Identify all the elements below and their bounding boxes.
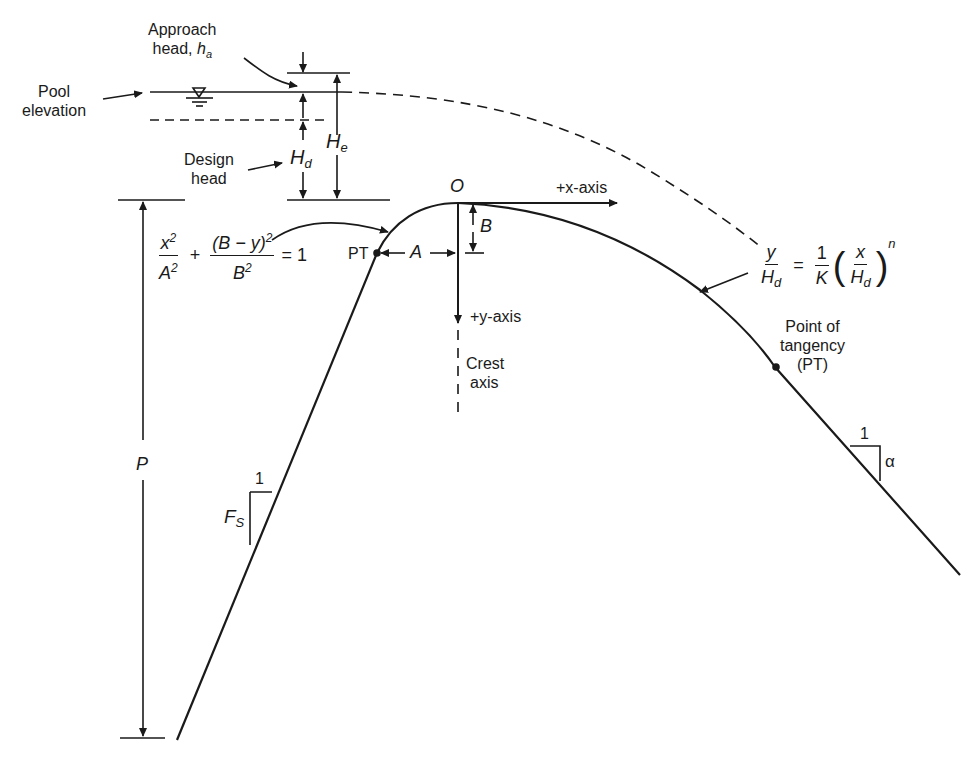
approach-head-line2: head, ha xyxy=(148,39,217,60)
nappe-dashed-curve xyxy=(342,92,762,248)
crest-axis-label: Crest axis xyxy=(466,354,504,392)
pt-downstream-dot xyxy=(773,364,779,370)
ellipse-equation: x2 A2 + (B − y)2 B2 = 1 xyxy=(154,228,314,283)
pt-downstream-label: Point of tangency (PT) xyxy=(780,317,845,374)
power-law-equation: y Hd = 1 K ( x Hd ) n xyxy=(756,242,896,289)
x-axis-label: +x-axis xyxy=(556,178,607,197)
pt-upstream-dot xyxy=(374,250,380,256)
fs-one-label: 1 xyxy=(255,469,264,488)
p-label: P xyxy=(136,454,148,475)
hd-label: Hd xyxy=(290,146,312,169)
he-label: He xyxy=(326,130,348,153)
alpha-slope-triangle xyxy=(850,446,880,481)
upstream-face xyxy=(177,253,377,740)
alpha-label: α xyxy=(885,452,895,472)
design-head-label: Design head xyxy=(184,150,234,188)
approach-head-line1: Approach xyxy=(148,20,217,39)
pool-elevation-label: Pool elevation xyxy=(22,82,86,120)
origin-label: O xyxy=(450,176,464,197)
pt-upstream-label: PT xyxy=(348,244,368,263)
b-label: B xyxy=(480,216,492,237)
approach-head-label: Approach head, ha xyxy=(148,20,217,60)
fs-label: FS xyxy=(224,506,244,528)
alpha-one-label: 1 xyxy=(860,424,869,443)
a-label: A xyxy=(410,242,422,263)
y-axis-label: +y-axis xyxy=(470,307,521,326)
